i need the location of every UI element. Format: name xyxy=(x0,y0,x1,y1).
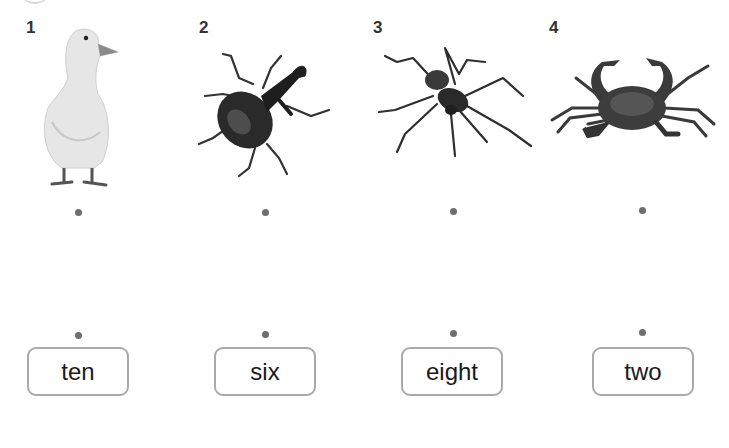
item-number-1: 1 xyxy=(26,18,35,38)
bottom-dot-1[interactable] xyxy=(75,332,82,339)
word-box-six[interactable]: six xyxy=(214,347,316,396)
top-dot-1[interactable] xyxy=(75,209,82,216)
top-dot-4[interactable] xyxy=(639,207,646,214)
beetle-image xyxy=(193,48,333,178)
word-box-ten[interactable]: ten xyxy=(27,347,129,396)
word-box-eight[interactable]: eight xyxy=(401,347,503,396)
duck-image xyxy=(38,22,122,190)
item-number-3: 3 xyxy=(373,18,382,38)
decorative-arc xyxy=(22,0,48,4)
bottom-dot-2[interactable] xyxy=(262,331,269,338)
spider-image xyxy=(375,44,535,164)
crab-image xyxy=(548,54,718,148)
item-number-2: 2 xyxy=(199,18,208,38)
top-dot-2[interactable] xyxy=(262,209,269,216)
word-box-two[interactable]: two xyxy=(592,347,694,396)
bottom-dot-3[interactable] xyxy=(450,330,457,337)
item-number-4: 4 xyxy=(549,18,558,38)
top-dot-3[interactable] xyxy=(450,208,457,215)
bottom-dot-4[interactable] xyxy=(639,329,646,336)
